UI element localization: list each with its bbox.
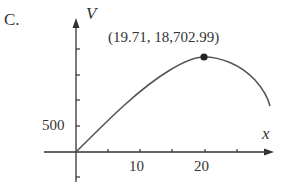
function-curve (76, 57, 270, 152)
y-axis (73, 18, 81, 182)
max-point-marker (200, 53, 207, 60)
chart-plot (0, 0, 281, 185)
y-axis-arrow-icon (73, 18, 80, 28)
x-axis-arrow-icon (264, 149, 274, 156)
